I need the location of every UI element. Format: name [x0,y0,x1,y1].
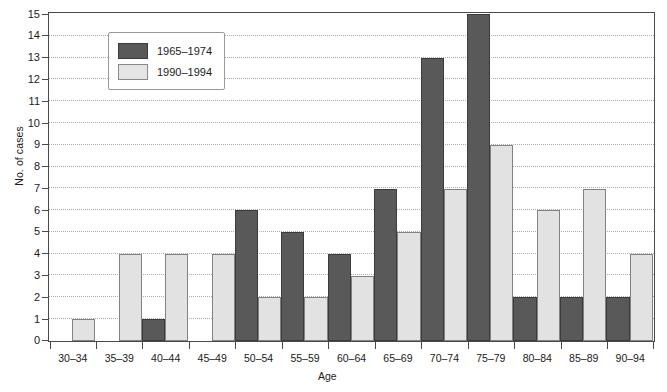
bar [421,58,444,341]
x-tick-mark [142,342,143,349]
bar [537,210,560,341]
bar [72,319,95,341]
bar [397,232,420,341]
legend-item: 1990–1994 [118,61,212,82]
x-tick-label: 55–59 [290,352,319,364]
bar-chart: No. of cases Age 0123456789101112131415 … [0,0,667,392]
bar [165,254,188,341]
bar [304,297,327,341]
gridline [49,100,654,101]
x-tick-mark [421,342,422,349]
x-tick-mark [189,342,190,349]
x-tick-label: 50–54 [244,352,273,364]
y-tick-label: 15 [0,8,40,19]
x-tick-mark [514,342,515,349]
y-tick-label: 0 [0,335,40,346]
bar [606,297,629,341]
bar [467,14,490,341]
bar [583,189,606,342]
x-axis-label: Age [318,370,337,382]
bar [235,210,258,341]
y-tick-label: 11 [0,95,40,106]
x-tick-mark [561,342,562,349]
x-tick-label: 75–79 [476,352,505,364]
x-tick-mark [653,342,654,349]
x-tick-mark [235,342,236,349]
bar [281,232,304,341]
x-tick-mark [96,342,97,349]
y-tick-label: 12 [0,73,40,84]
x-tick-mark [282,342,283,349]
x-tick-label: 65–69 [383,352,412,364]
legend-label: 1990–1994 [157,66,212,78]
x-tick-label: 40–44 [151,352,180,364]
y-tick-label: 6 [0,204,40,215]
x-tick-mark [607,342,608,349]
y-tick-label: 4 [0,248,40,259]
bar [351,276,374,341]
x-tick-label: 90–94 [616,352,645,364]
gridline [49,122,654,123]
legend-swatch-icon [118,64,148,80]
y-tick-label: 8 [0,161,40,172]
legend-swatch-icon [118,43,148,59]
bar [212,254,235,341]
bar [119,254,142,341]
x-tick-mark [50,342,51,349]
x-tick-mark [375,342,376,349]
legend: 1965–1974 1990–1994 [108,32,225,90]
bar [258,297,281,341]
x-tick-label: 60–64 [337,352,366,364]
bar [490,145,513,341]
x-tick-label: 45–49 [198,352,227,364]
x-tick-mark [328,342,329,349]
y-tick-label: 10 [0,117,40,128]
gridline [49,144,654,145]
gridline [49,209,654,210]
bar [513,297,536,341]
y-tick-label: 5 [0,226,40,237]
y-tick-label: 2 [0,291,40,302]
gridline [49,166,654,167]
x-tick-label: 30–34 [58,352,87,364]
y-tick-label: 13 [0,52,40,63]
bar [630,254,653,341]
bar [142,319,165,341]
bar [444,189,467,342]
y-tick-label: 1 [0,313,40,324]
bar [328,254,351,341]
bar [374,189,397,342]
y-tick-label: 7 [0,182,40,193]
bar [560,297,583,341]
gridline [49,187,654,188]
gridline [49,231,654,232]
y-tick-label: 9 [0,139,40,150]
x-tick-label: 70–74 [430,352,459,364]
x-tick-mark [468,342,469,349]
x-tick-label: 85–89 [569,352,598,364]
legend-label: 1965–1974 [157,45,212,57]
x-tick-label: 35–39 [105,352,134,364]
legend-item: 1965–1974 [118,40,212,61]
x-tick-label: 80–84 [523,352,552,364]
y-tick-label: 3 [0,270,40,281]
y-tick-label: 14 [0,30,40,41]
